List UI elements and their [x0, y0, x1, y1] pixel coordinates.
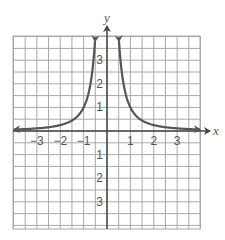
y-tick-label: 1 — [96, 100, 103, 114]
x-tick-label: 2 — [150, 134, 157, 148]
function-graph: −3−2−1123321123 x y — [0, 0, 225, 240]
x-tick-label: 1 — [127, 134, 134, 148]
x-axis-label: x — [212, 123, 219, 138]
curve-left-branch — [14, 41, 95, 129]
x-tick-label: −2 — [53, 134, 67, 148]
y-axis-label: y — [102, 10, 110, 25]
y-tick-label: 2 — [96, 171, 103, 185]
y-tick-label: 1 — [96, 148, 103, 162]
curve-right-branch — [119, 41, 200, 129]
x-tick-label: −3 — [30, 134, 44, 148]
y-tick-label: 3 — [96, 53, 103, 67]
y-tick-label: 2 — [96, 77, 103, 91]
y-tick-label: 3 — [96, 195, 103, 209]
x-tick-label: −1 — [77, 134, 91, 148]
x-tick-label: 3 — [174, 134, 181, 148]
